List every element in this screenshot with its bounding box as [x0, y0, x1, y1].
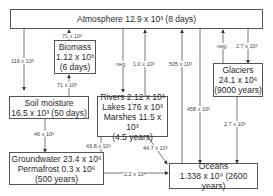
flux-oceans-atm: 505 x 10³ — [169, 61, 192, 67]
glaciers-name: Glaciers — [222, 65, 253, 75]
biomass-box: Biomass 1.12 x 10³ (6 days) — [54, 40, 96, 74]
flux-glaciers-atm: neg. — [217, 43, 228, 49]
glaciers-volume: 24.1 x 10⁶ — [219, 75, 257, 85]
atmosphere-box: Atmosphere 12.9 x 10³ (8 days) — [10, 9, 263, 29]
marshes-line: Marshes 11.5 x 10³ — [98, 112, 167, 132]
permafrost-line: Permafrost 0.3 x 10⁶ — [18, 164, 96, 174]
atmosphere-label: Atmosphere 12.9 x 10³ (8 days) — [77, 14, 196, 24]
flux-groundwater-oceans: 2.2 x 10³ — [124, 171, 145, 177]
biomass-name: Biomass — [59, 42, 92, 52]
groundwater-line: Groundwater 23.4 x 10⁶ — [12, 154, 102, 164]
flux-atm-soil: 116 x 10³ — [11, 58, 34, 64]
soil-volume: 16.5 x 10³ (50 days) — [11, 108, 87, 118]
biomass-volume: 1.12 x 10³ — [56, 52, 94, 62]
groundwater-residence: (500 years) — [35, 174, 78, 184]
biomass-residence: (6 days) — [60, 62, 91, 72]
soil-name: Soil moisture — [24, 98, 73, 108]
soil-moisture-box: Soil moisture 16.5 x 10³ (50 days) — [9, 96, 89, 119]
flux-surface-oceans: 44.7 x 10³ — [143, 145, 167, 151]
flux-atm-glaciers: 2.7 x 10³ — [236, 43, 257, 49]
flux-groundwater-surface: 43.8 x 10³ — [86, 143, 110, 149]
oceans-box: Oceans 1.338 x 10⁹ (2600 years) — [169, 163, 258, 189]
surface-residence: (4.5 years) — [112, 132, 153, 142]
oceans-volume: 1.338 x 10⁹ (2600 years) — [170, 171, 257, 191]
flux-surface-atm: 1.0 x 10³ — [133, 61, 154, 67]
flux-atm-surface: neg. — [116, 61, 127, 67]
flux-soil-biomass: 71 x 10³ — [57, 82, 77, 88]
groundwater-box: Groundwater 23.4 x 10⁶ Permafrost 0.3 x … — [9, 152, 104, 185]
rivers-line: Rivers 2.12 x 10³ — [100, 92, 164, 102]
glaciers-box: Glaciers 24.1 x 10⁶ (9000 years) — [213, 63, 263, 97]
surface-water-box: Rivers 2.12 x 10³ Lakes 176 x 10³ Marshe… — [97, 96, 168, 137]
glaciers-residence: (9000 years) — [214, 85, 262, 95]
flux-atm-oceans: 458 x 10³ — [187, 106, 210, 112]
flux-biomass-atm: 71 x 10³ — [62, 33, 82, 39]
flux-soil-groundwater: 46 x 10³ — [34, 131, 54, 137]
flux-glaciers-oceans: 2.7 x 10³ — [224, 121, 245, 127]
lakes-line: Lakes 176 x 10³ — [102, 102, 162, 112]
oceans-name: Oceans — [199, 161, 228, 171]
